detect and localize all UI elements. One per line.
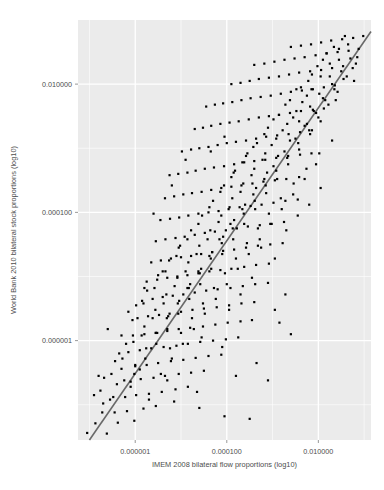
svg-text:0.000001: 0.000001 — [42, 336, 72, 345]
x-axis-tick-labels: 0.0000010.0001000.010000 — [120, 447, 333, 456]
y-axis-tick-marks — [75, 84, 78, 340]
x-axis-tick-marks — [135, 440, 318, 443]
svg-text:0.010000: 0.010000 — [42, 80, 72, 89]
svg-text:0.010000: 0.010000 — [303, 447, 333, 456]
svg-text:0.000001: 0.000001 — [120, 447, 150, 456]
svg-text:0.000100: 0.000100 — [42, 208, 72, 217]
y-axis-title: World Bank 2010 bilateral stock proporti… — [9, 146, 18, 314]
y-axis-tick-labels: 0.0000010.0001000.010000 — [42, 80, 72, 345]
plot-canvas: 0.0000010.0001000.010000 0.0000010.00010… — [0, 0, 384, 490]
x-axis-title: IMEM 2008 bilateral flow proportions (lo… — [152, 460, 297, 469]
svg-text:0.000100: 0.000100 — [212, 447, 242, 456]
plot-panel-background — [78, 20, 371, 440]
scatter-plot-figure: 0.0000010.0001000.010000 0.0000010.00010… — [0, 0, 384, 490]
